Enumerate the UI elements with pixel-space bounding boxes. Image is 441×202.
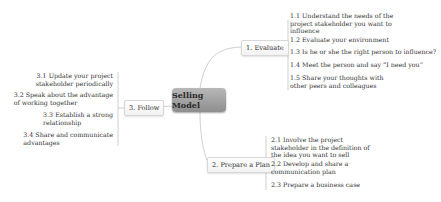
leaf-text: 3.4 Share and communicate	[23, 131, 113, 139]
leaf-3-4[interactable]: 3.4 Share and communicate advantages	[23, 131, 113, 146]
leaf-text: 3.1 Update your project	[36, 72, 113, 80]
leaf-text: 3.3 Establish a strong	[43, 111, 113, 119]
branch-node-prepare-plan[interactable]: 2. Prepare a Plan	[207, 157, 275, 173]
leaf-2-1[interactable]: 2.1 Involve the project stakeholder in t…	[271, 136, 370, 159]
leaf-text: of working together	[14, 99, 113, 107]
leaf-text: 3.2 Speak about the advantage	[14, 91, 113, 99]
leaf-3-2[interactable]: 3.2 Speak about the advantage of working…	[14, 91, 113, 106]
branch-node-evaluate[interactable]: 1. Evaluate	[241, 40, 289, 56]
leaf-text: 1.4 Meet the person and say “I need you”	[290, 61, 423, 69]
leaf-text: advantages	[23, 139, 113, 147]
leaf-text: 1.5 Share your thoughts with	[290, 74, 384, 82]
leaf-text: influence	[290, 27, 393, 35]
branch-label: 3. Follow	[129, 104, 159, 112]
branch-node-follow[interactable]: 3. Follow	[124, 100, 164, 116]
branch-label: 2. Prepare a Plan	[212, 161, 270, 169]
leaf-1-4[interactable]: 1.4 Meet the person and say “I need you”	[290, 61, 423, 69]
leaf-text: project stakeholder you want to	[290, 20, 393, 28]
leaf-text: the idea you want to sell	[271, 151, 370, 159]
leaf-1-5[interactable]: 1.5 Share your thoughts with other peers…	[290, 74, 384, 89]
leaf-text: other peers and colleagues	[290, 82, 384, 90]
leaf-text: relationship	[43, 119, 113, 127]
leaf-3-3[interactable]: 3.3 Establish a strong relationship	[43, 111, 113, 126]
leaf-1-1[interactable]: 1.1 Understand the needs of the project …	[290, 12, 393, 35]
leaf-text: communication plan	[271, 168, 348, 176]
leaf-2-2[interactable]: 2.2 Develop and share a communication pl…	[271, 160, 348, 175]
leaf-text: 1.1 Understand the needs of the	[290, 12, 393, 20]
leaf-text: 2.1 Involve the project	[271, 136, 370, 144]
central-node-label: Selling Model	[172, 90, 226, 110]
leaf-text: 1.3 Is he or she the right person to inf…	[290, 48, 436, 56]
leaf-text: 2.3 Prepare a business case	[271, 181, 360, 189]
central-node[interactable]: Selling Model	[172, 88, 226, 112]
leaf-1-3[interactable]: 1.3 Is he or she the right person to inf…	[290, 48, 436, 56]
leaf-text: stakeholder in the definition of	[271, 144, 370, 152]
leaf-2-3[interactable]: 2.3 Prepare a business case	[271, 181, 360, 189]
branch-label: 1. Evaluate	[246, 44, 284, 52]
leaf-text: 1.2 Evaluate your environment	[290, 36, 389, 44]
leaf-3-1[interactable]: 3.1 Update your project stakeholder peri…	[36, 72, 113, 87]
leaf-text: stakeholder periodically	[36, 80, 113, 88]
leaf-1-2[interactable]: 1.2 Evaluate your environment	[290, 36, 389, 44]
leaf-text: 2.2 Develop and share a	[271, 160, 348, 168]
